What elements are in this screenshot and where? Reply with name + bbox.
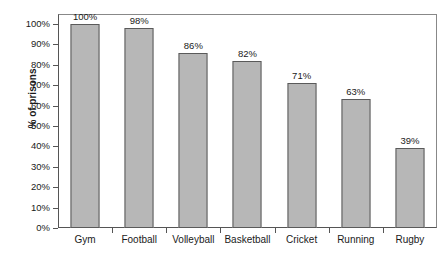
bar-slot: 71% bbox=[275, 14, 329, 228]
bar-value-label: 82% bbox=[238, 49, 257, 59]
y-axis-tick-label: 30% bbox=[2, 162, 50, 172]
x-axis-category-label: Gym bbox=[58, 234, 112, 246]
bar[interactable] bbox=[341, 99, 370, 228]
x-axis-tick-mark bbox=[329, 228, 330, 233]
y-axis-tick-label: 70% bbox=[2, 80, 50, 90]
y-axis-tick-label: 60% bbox=[2, 101, 50, 111]
y-axis-tick-label: 10% bbox=[2, 203, 50, 213]
y-axis-tick-label: 80% bbox=[2, 60, 50, 70]
y-axis-tick-label: 40% bbox=[2, 141, 50, 151]
x-axis-category-label: Running bbox=[329, 234, 383, 246]
x-axis-tick-mark bbox=[383, 228, 384, 233]
x-axis-tick-mark bbox=[220, 228, 221, 233]
bar-slot: 86% bbox=[166, 14, 220, 228]
bar-slot: 39% bbox=[383, 14, 437, 228]
bar-slot: 100% bbox=[58, 14, 112, 228]
bar-value-label: 100% bbox=[73, 12, 97, 22]
x-axis-category-label: Basketball bbox=[220, 234, 274, 246]
bar-chart: % of prisons 0%10%20%30%40%50%60%70%80%9… bbox=[0, 0, 447, 257]
x-axis-category-label: Volleyball bbox=[166, 234, 220, 246]
y-axis-tick-label: 20% bbox=[2, 182, 50, 192]
bar-slot: 98% bbox=[112, 14, 166, 228]
y-axis-tick-label: 50% bbox=[2, 121, 50, 131]
x-axis-category-label: Football bbox=[112, 234, 166, 246]
y-axis-tick-label: 100% bbox=[2, 19, 50, 29]
y-axis-tick-label: 90% bbox=[2, 39, 50, 49]
bar[interactable] bbox=[125, 28, 154, 228]
y-axis-tick-label: 0% bbox=[2, 223, 50, 233]
bar-slot: 82% bbox=[220, 14, 274, 228]
bar-value-label: 39% bbox=[400, 136, 419, 146]
bar-value-label: 86% bbox=[184, 41, 203, 51]
bar-slot: 63% bbox=[329, 14, 383, 228]
bar[interactable] bbox=[287, 83, 316, 228]
x-axis-category-label: Rugby bbox=[383, 234, 437, 246]
y-axis-tick-mark bbox=[53, 228, 58, 229]
x-axis-tick-mark bbox=[275, 228, 276, 233]
bar-value-label: 98% bbox=[130, 16, 149, 26]
bar[interactable] bbox=[179, 53, 208, 228]
bars-layer: 100%98%86%82%71%63%39% bbox=[58, 14, 437, 228]
bar[interactable] bbox=[395, 148, 424, 228]
x-axis-tick-mark bbox=[112, 228, 113, 233]
x-axis-tick-mark bbox=[166, 228, 167, 233]
bar-value-label: 71% bbox=[292, 71, 311, 81]
bar[interactable] bbox=[233, 61, 262, 228]
x-axis-category-label: Cricket bbox=[275, 234, 329, 246]
bar-value-label: 63% bbox=[346, 87, 365, 97]
bar[interactable] bbox=[71, 24, 100, 228]
